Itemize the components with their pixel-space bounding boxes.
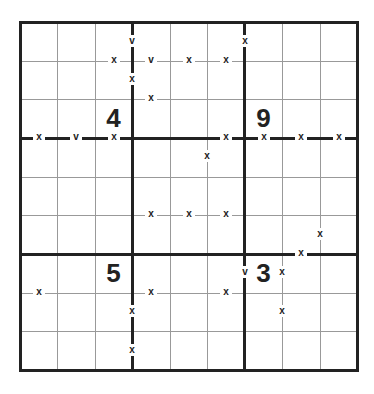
cell-r3c8[interactable] — [320, 138, 357, 177]
cell-r0c1[interactable] — [57, 22, 94, 61]
cell-r5c0[interactable] — [20, 215, 57, 254]
x-clue-marker: x — [108, 54, 120, 66]
cell-r8c8[interactable] — [320, 331, 357, 370]
grid-line — [57, 22, 58, 370]
grid-line — [20, 177, 357, 178]
x-clue-marker: x — [276, 305, 288, 317]
cell-r3c7[interactable] — [282, 138, 319, 177]
grid-line — [207, 22, 208, 370]
cell-r6c8[interactable] — [320, 254, 357, 293]
cell-r0c8[interactable] — [320, 22, 357, 61]
x-clue-marker: x — [145, 208, 157, 220]
v-clue-marker: v — [239, 266, 251, 278]
x-clue-marker: x — [239, 35, 251, 47]
x-clue-marker: x — [183, 208, 195, 220]
cell-r5c2[interactable] — [95, 215, 132, 254]
x-clue-marker: x — [183, 54, 195, 66]
cell-r7c4[interactable] — [170, 293, 207, 332]
cell-r1c4[interactable] — [170, 61, 207, 100]
cell-r1c6[interactable] — [245, 61, 282, 100]
box-line — [19, 21, 22, 372]
cell-r5c6[interactable] — [245, 215, 282, 254]
cell-r6c4[interactable] — [170, 254, 207, 293]
box-line — [356, 21, 359, 372]
cell-r5c3[interactable] — [132, 215, 169, 254]
box-line — [19, 253, 359, 256]
x-clue-marker: x — [276, 266, 288, 278]
cell-r3c3[interactable] — [132, 138, 169, 177]
cell-r2c4[interactable] — [170, 99, 207, 138]
cell-r4c7[interactable] — [282, 177, 319, 216]
cell-r0c7[interactable] — [282, 22, 319, 61]
x-clue-marker: x — [333, 131, 345, 143]
x-clue-marker: x — [314, 228, 326, 240]
x-clue-marker: x — [33, 286, 45, 298]
cell-r1c5[interactable] — [207, 61, 244, 100]
x-clue-marker: x — [145, 92, 157, 104]
x-clue-marker: x — [220, 286, 232, 298]
grid-line — [320, 22, 321, 370]
x-clue-marker: x — [126, 305, 138, 317]
cell-r5c4[interactable] — [170, 215, 207, 254]
grid-line — [170, 22, 171, 370]
cell-r7c5[interactable] — [207, 293, 244, 332]
cell-r1c1[interactable] — [57, 61, 94, 100]
box-line — [19, 21, 359, 24]
cell-r8c7[interactable] — [282, 331, 319, 370]
cell-r0c0[interactable] — [20, 22, 57, 61]
box-line — [243, 21, 246, 372]
box-line — [19, 369, 359, 372]
cell-r7c1[interactable] — [57, 293, 94, 332]
x-clue-marker: x — [108, 131, 120, 143]
cell-r8c0[interactable] — [20, 331, 57, 370]
x-clue-marker: x — [145, 286, 157, 298]
x-clue-marker: x — [220, 208, 232, 220]
cell-r4c6[interactable] — [245, 177, 282, 216]
cell-r3c2[interactable] — [95, 138, 132, 177]
cell-r8c5[interactable] — [207, 331, 244, 370]
cell-r8c1[interactable] — [57, 331, 94, 370]
v-clue-marker: v — [126, 35, 138, 47]
cell-r3c0[interactable] — [20, 138, 57, 177]
cell-r7c8[interactable] — [320, 293, 357, 332]
grid-line — [95, 22, 96, 370]
x-clue-marker: x — [220, 54, 232, 66]
cell-r3c1[interactable] — [57, 138, 94, 177]
cell-r5c1[interactable] — [57, 215, 94, 254]
x-clue-marker: x — [33, 131, 45, 143]
x-clue-marker: x — [220, 131, 232, 143]
x-clue-marker: x — [201, 150, 213, 162]
x-clue-marker: x — [258, 131, 270, 143]
v-clue-marker: v — [70, 131, 82, 143]
cell-r4c2[interactable] — [95, 177, 132, 216]
cell-r7c0[interactable] — [20, 293, 57, 332]
cell-r4c8[interactable] — [320, 177, 357, 216]
cell-r1c0[interactable] — [20, 61, 57, 100]
cell-r1c8[interactable] — [320, 61, 357, 100]
sudoku-grid: 4953 — [20, 22, 357, 370]
x-clue-marker: x — [126, 73, 138, 85]
grid-line — [20, 293, 357, 294]
cell-r3c6[interactable] — [245, 138, 282, 177]
cell-r4c1[interactable] — [57, 177, 94, 216]
x-clue-marker: x — [126, 344, 138, 356]
v-clue-marker: v — [145, 54, 157, 66]
cell-r5c5[interactable] — [207, 215, 244, 254]
x-clue-marker: x — [295, 131, 307, 143]
cell-r6c1[interactable] — [57, 254, 94, 293]
cell-r4c0[interactable] — [20, 177, 57, 216]
x-clue-marker: x — [295, 247, 307, 259]
cell-r2c3[interactable] — [132, 99, 169, 138]
grid-line — [20, 331, 357, 332]
cell-r1c7[interactable] — [282, 61, 319, 100]
grid-line — [282, 22, 283, 370]
cell-r8c6[interactable] — [245, 331, 282, 370]
cell-r8c4[interactable] — [170, 331, 207, 370]
given-digit: 5 — [95, 254, 132, 293]
grid-line — [20, 99, 357, 100]
